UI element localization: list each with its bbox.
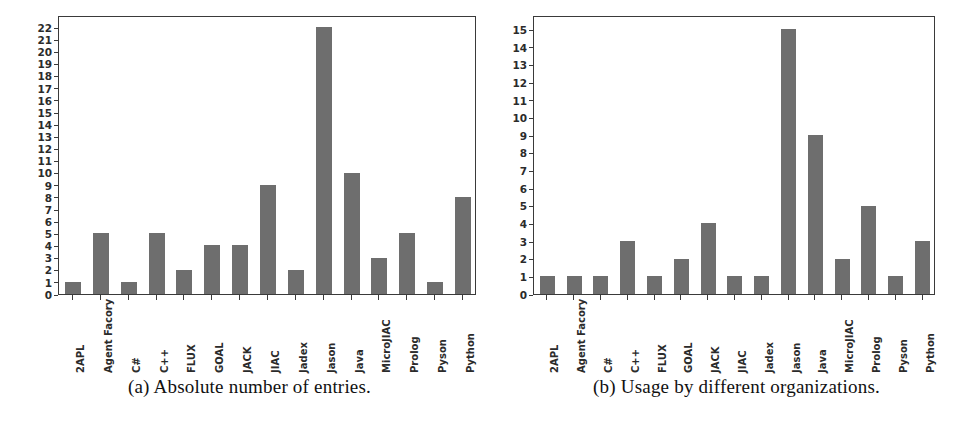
y-tick-label: 4 <box>45 241 52 252</box>
bar-prolog <box>861 206 876 294</box>
plot-area-a <box>58 16 476 295</box>
bar-slot <box>695 17 722 294</box>
figure-container: 012345678910111213141516171819202122 2AP… <box>0 0 970 424</box>
x-tick-mark <box>406 295 407 300</box>
x-tick-mark <box>100 295 101 300</box>
bar-slot <box>310 17 338 294</box>
bar-slot <box>170 17 198 294</box>
bar-slot <box>882 17 909 294</box>
bar-flux <box>647 276 662 294</box>
bars-layer-a <box>59 17 475 294</box>
x-axis-label: GOAL <box>684 342 694 373</box>
y-tick-label: 1 <box>520 272 527 283</box>
y-tick-label: 7 <box>520 166 527 177</box>
y-tick-label: 5 <box>45 229 52 240</box>
bar-jadex <box>288 270 304 294</box>
y-tick-label: 22 <box>37 22 52 33</box>
y-tick-label: 1 <box>45 277 52 288</box>
x-tick-mark <box>600 295 601 300</box>
y-tick-label: 6 <box>45 216 52 227</box>
x-tick-mark <box>295 295 296 300</box>
bar-slot <box>561 17 588 294</box>
x-tick-mark <box>211 295 212 300</box>
bar-slot <box>421 17 449 294</box>
x-tick-mark <box>239 295 240 300</box>
y-tick-label: 9 <box>520 130 527 141</box>
bar-slot <box>856 17 883 294</box>
chart-panel-b: 0123456789101112131415 2APLAgent FacoryC… <box>485 0 970 424</box>
bar-c- <box>149 233 165 294</box>
bar-flux <box>176 270 192 294</box>
x-tick-mark <box>734 295 735 300</box>
bar-slot <box>393 17 421 294</box>
x-tick-mark <box>761 295 762 300</box>
bar-c- <box>121 282 137 294</box>
y-tick-label: 8 <box>520 148 527 159</box>
y-tick-label: 15 <box>512 24 527 35</box>
x-axis-label: Jason <box>327 343 337 373</box>
bar-slot <box>226 17 254 294</box>
y-tick-label: 9 <box>45 180 52 191</box>
y-tick-label: 21 <box>37 35 52 46</box>
bar-slot <box>722 17 749 294</box>
bar-slot <box>254 17 282 294</box>
bar-goal <box>674 259 689 294</box>
y-tick-label: 0 <box>520 289 527 300</box>
bar-jack <box>701 223 716 294</box>
bar-pyson <box>888 276 903 294</box>
y-tick-label: 13 <box>512 60 527 71</box>
bar-slot <box>338 17 366 294</box>
x-axis-label: Jadex <box>765 342 775 373</box>
x-axis-label: C++ <box>631 349 641 373</box>
x-tick-mark <box>72 295 73 300</box>
bar-jiac <box>260 185 276 294</box>
bar-slot <box>366 17 394 294</box>
x-tick-mark <box>183 295 184 300</box>
bar-microjiac <box>371 258 387 294</box>
y-tick-label: 0 <box>45 289 52 300</box>
x-axis-label: JACK <box>711 346 721 373</box>
y-axis-a: 012345678910111213141516171819202122 <box>16 0 58 424</box>
x-axis-label: Agent Facory <box>104 299 114 373</box>
x-tick-mark <box>895 295 896 300</box>
bar-jason <box>316 27 332 294</box>
x-axis-label: JIAC <box>271 350 281 373</box>
bar-slot <box>87 17 115 294</box>
x-axis-label: FLUX <box>187 344 197 373</box>
x-tick-mark <box>841 295 842 300</box>
bar-slot <box>909 17 936 294</box>
bar-java <box>344 173 360 294</box>
bar-slot <box>449 17 477 294</box>
y-tick-label: 14 <box>37 119 52 130</box>
x-axis-label: 2APL <box>76 345 86 373</box>
bar-python <box>455 197 471 294</box>
y-tick-label: 3 <box>45 253 52 264</box>
bar-jadex <box>754 276 769 294</box>
y-tick-label: 4 <box>520 219 527 230</box>
bar-slot <box>748 17 775 294</box>
chart-panel-a: 012345678910111213141516171819202122 2AP… <box>0 0 485 424</box>
x-axis-label: Prolog <box>872 336 882 373</box>
x-tick-mark <box>788 295 789 300</box>
bar-slot <box>668 17 695 294</box>
bar-microjiac <box>835 259 850 294</box>
y-tick-label: 19 <box>37 59 52 70</box>
y-tick-label: 10 <box>37 168 52 179</box>
y-tick-label: 11 <box>37 156 52 167</box>
x-tick-mark <box>546 295 547 300</box>
y-tick-label: 5 <box>520 201 527 212</box>
bar-slot <box>802 17 829 294</box>
y-tick-label: 14 <box>512 42 527 53</box>
x-axis-label: C# <box>604 357 614 373</box>
bar-goal <box>204 245 220 294</box>
bars-layer-b <box>534 17 934 294</box>
y-tick-label: 2 <box>45 265 52 276</box>
x-tick-mark <box>156 295 157 300</box>
x-axis-ticks-a <box>58 295 476 300</box>
x-axis-label: Python <box>926 333 936 373</box>
x-tick-mark <box>128 295 129 300</box>
bar-slot <box>282 17 310 294</box>
y-tick-label: 10 <box>512 113 527 124</box>
plot-area-b <box>533 16 935 295</box>
x-tick-mark <box>627 295 628 300</box>
